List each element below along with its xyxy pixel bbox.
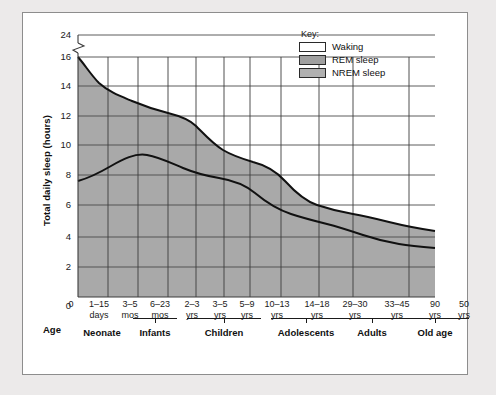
legend-label-nrem-sleep: NREM sleep (332, 67, 385, 78)
age-group-infants: Infants (127, 318, 183, 338)
age-group-adolescents: Adolescents (267, 318, 345, 338)
brace-children (187, 318, 261, 328)
legend-item-nrem-sleep: NREM sleep (299, 67, 385, 78)
legend-swatch-waking (299, 42, 326, 52)
y-tick-4: 4 (49, 232, 71, 242)
y-tick-24: 24 (49, 30, 71, 40)
legend-swatch-nrem-sleep (299, 68, 326, 78)
brace-infants (133, 318, 177, 328)
chart-card: Total daily sleep (hours) 24 16 14 12 10… (22, 12, 468, 375)
y-tick-14: 14 (49, 81, 71, 91)
brace-adults (341, 318, 403, 328)
chart-legend: Key: Waking REM sleep NREM sleep (299, 29, 385, 80)
y-tick-8: 8 (49, 170, 71, 180)
brace-adolescents (271, 318, 341, 328)
age-group-braces: Neonate Infants Children Adolescents Adu… (23, 318, 469, 362)
legend-item-rem-sleep: REM sleep (299, 54, 385, 65)
age-group-neonate: Neonate (69, 318, 135, 338)
y-tick-12: 12 (49, 111, 71, 121)
legend-item-waking: Waking (299, 41, 385, 52)
legend-label-waking: Waking (332, 41, 363, 52)
age-group-old-age: Old age (395, 318, 475, 338)
y-tick-2: 2 (49, 262, 71, 272)
x-tick-zero: 0 (61, 299, 81, 310)
page-root: Total daily sleep (hours) 24 16 14 12 10… (0, 0, 496, 395)
brace-old-age (401, 318, 469, 328)
legend-swatch-rem-sleep (299, 55, 326, 65)
y-tick-16: 16 (49, 52, 71, 62)
chart-plot-area: Total daily sleep (hours) 24 16 14 12 10… (23, 13, 469, 376)
y-tick-6: 6 (49, 200, 71, 210)
y-tick-10: 10 (49, 140, 71, 150)
legend-title: Key: (301, 29, 385, 39)
axis-break-icon (73, 43, 84, 53)
age-group-children: Children (183, 318, 265, 338)
legend-label-rem-sleep: REM sleep (332, 54, 378, 65)
